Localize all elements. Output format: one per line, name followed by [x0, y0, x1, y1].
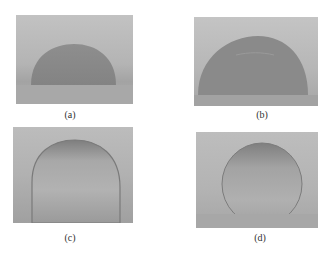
panel-label-c: (c) [50, 232, 90, 243]
droplet-image-d [196, 132, 318, 228]
droplet-image-a [16, 15, 133, 104]
panel-label-d: (d) [240, 232, 280, 243]
droplet-image-b [194, 17, 318, 106]
panel-label-b: (b) [242, 109, 282, 120]
panel-label-a: (a) [50, 109, 90, 120]
droplet-image-c [13, 127, 133, 223]
